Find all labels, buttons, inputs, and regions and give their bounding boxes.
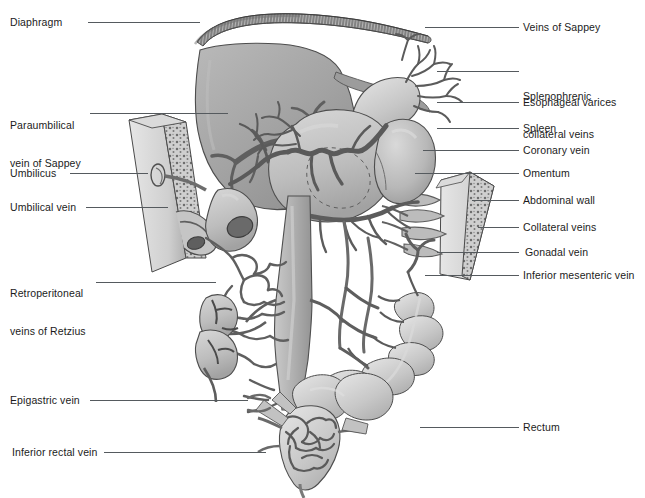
- leader-veins-of-sappey: [425, 27, 519, 28]
- label-spleen-line1: Spleen: [523, 122, 556, 134]
- leader-inferior-rectal-vein: [104, 452, 266, 453]
- label-rectum-line1: Rectum: [523, 421, 560, 433]
- label-umbilicus-line1: Umbilicus: [10, 167, 56, 179]
- leader-umbilical-vein: [86, 207, 168, 208]
- label-omentum-line1: Omentum: [523, 167, 570, 179]
- figure-canvas: Diaphragm Paraumbilical vein of Sappey U…: [0, 0, 645, 498]
- leader-retzius: [96, 282, 216, 283]
- label-epigastric-vein: Epigastric vein: [10, 394, 80, 407]
- label-spleen: Spleen: [523, 122, 556, 135]
- leader-gonadal-vein: [437, 252, 519, 253]
- gonadal-vein: [339, 222, 372, 352]
- leader-collateral-veins: [478, 227, 519, 228]
- label-inferior-rectal-vein-line1: Inferior rectal vein: [12, 446, 97, 458]
- label-rectum: Rectum: [523, 421, 560, 434]
- label-coronary-vein-line1: Coronary vein: [523, 144, 590, 156]
- label-paraumbilical-line1: Paraumbilical: [10, 119, 81, 132]
- leader-omentum: [415, 173, 519, 174]
- label-abdominal-wall-line1: Abdominal wall: [523, 194, 595, 206]
- label-retzius-line2: veins of Retzius: [10, 325, 86, 338]
- label-veins-of-sappey: Veins of Sappey: [523, 21, 600, 34]
- label-veins-of-sappey-line1: Veins of Sappey: [523, 21, 600, 33]
- label-omentum: Omentum: [523, 167, 570, 180]
- leader-inferior-mesenteric-vein: [425, 275, 519, 276]
- leader-paraumbilical-vein: [90, 113, 228, 114]
- leader-coronary-vein: [423, 150, 519, 151]
- label-gonadal-vein-line1: Gonadal vein: [525, 246, 588, 258]
- label-retzius-line1: Retroperitoneal: [10, 287, 86, 300]
- label-umbilical-vein: Umbilical vein: [10, 201, 76, 214]
- label-coronary-vein: Coronary vein: [523, 144, 590, 157]
- label-esophageal-varices-line1: Esophageal varices: [523, 96, 616, 108]
- leader-abdominal-wall: [472, 200, 519, 201]
- leader-diaphragm: [88, 22, 200, 23]
- leader-umbilicus: [70, 173, 148, 174]
- label-retroperitoneal-veins-of-retzius: Retroperitoneal veins of Retzius: [10, 262, 86, 362]
- leader-epigastric-vein: [90, 400, 248, 401]
- label-abdominal-wall: Abdominal wall: [523, 194, 595, 207]
- leader-splenophrenic: [437, 71, 519, 72]
- label-umbilicus: Umbilicus: [10, 167, 56, 180]
- diaphragm-structure: [195, 14, 431, 46]
- label-diaphragm-line1: Diaphragm: [10, 16, 62, 28]
- label-umbilical-vein-line1: Umbilical vein: [10, 201, 76, 213]
- label-collateral-veins: Collateral veins: [523, 221, 596, 234]
- label-inferior-mesenteric-vein-line1: Inferior mesenteric vein: [523, 269, 635, 281]
- label-collateral-veins-line1: Collateral veins: [523, 221, 596, 233]
- label-gonadal-vein: Gonadal vein: [525, 246, 588, 259]
- label-esophageal-varices: Esophageal varices: [523, 96, 616, 109]
- leader-esophageal-varices: [437, 102, 519, 103]
- label-inferior-mesenteric-vein: Inferior mesenteric vein: [523, 269, 635, 282]
- leader-rectum: [420, 427, 519, 428]
- leader-spleen: [437, 128, 519, 129]
- label-inferior-rectal-vein: Inferior rectal vein: [12, 446, 97, 459]
- label-epigastric-vein-line1: Epigastric vein: [10, 394, 80, 406]
- label-diaphragm: Diaphragm: [10, 16, 62, 29]
